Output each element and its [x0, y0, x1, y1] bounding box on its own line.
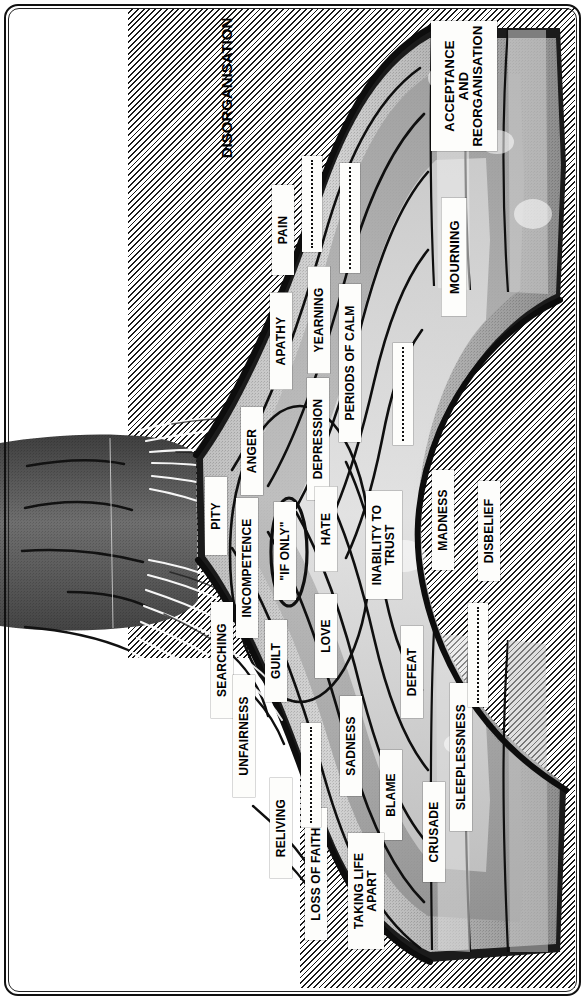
blank-label-blank-5[interactable] — [301, 723, 321, 827]
strand-label-anger: ANGER — [241, 407, 263, 495]
stage-label-acceptance-and-reorganisation: ACCEPTANCEANDREORGANISATION — [431, 21, 497, 151]
blank-label-blank-3[interactable] — [393, 343, 413, 445]
strand-label-yearning: YEARNING — [308, 267, 330, 374]
strand-label-searching: SEARCHING — [211, 602, 233, 718]
strand-label-unfairness: UNFAIRNESS — [233, 675, 255, 797]
rope-tail — [0, 434, 198, 650]
blank-label-blank-1[interactable] — [302, 156, 322, 252]
strand-label-guilt: GUILT — [265, 620, 287, 702]
strand-label-hate: HATE — [315, 487, 337, 572]
strand-label-depression: DEPRESSION — [307, 378, 329, 500]
strand-label-disbelief: DISBELIEF — [478, 481, 500, 581]
strand-label-love: LOVE — [315, 594, 337, 678]
strand-label-crusade: CRUSADE — [423, 782, 445, 882]
strand-label-inability-to-trust: INABILITY TOTRUST — [366, 491, 402, 599]
strand-label-taking-life-apart: TAKING LIFEAPART — [348, 833, 384, 949]
dotted-fill-line — [349, 167, 351, 269]
strand-label-defeat: DEFEAT — [401, 626, 423, 718]
strand-label-blame: BLAME — [380, 750, 402, 840]
dotted-fill-line — [310, 727, 312, 823]
strand-label-if-only: "IF ONLY" — [274, 502, 296, 600]
strand-label-incompetence: INCOMPETENCE — [236, 498, 258, 638]
strand-label-pity: PITY — [205, 477, 227, 555]
scanned-page: DISORGANISATIONACCEPTANCEANDREORGANISATI… — [0, 0, 585, 1000]
dotted-fill-line — [477, 607, 479, 703]
strand-label-pain: PAIN — [272, 185, 294, 275]
stage-label-disorganisation: DISORGANISATION — [218, 0, 235, 188]
strand-label-periods-of-calm: PERIODS OF CALM — [339, 284, 361, 442]
strand-label-reliving: RELIVING — [270, 778, 292, 878]
strand-label-loss-of-faith: LOSS OF FAITH — [305, 808, 327, 940]
dotted-fill-line — [402, 347, 404, 441]
strand-label-sadness: SADNESS — [340, 696, 362, 796]
blank-label-blank-4[interactable] — [468, 603, 488, 707]
strand-label-apathy: APATHY — [270, 293, 292, 390]
strand-label-madness: MADNESS — [432, 470, 454, 570]
stage-label-mourning: MOURNING — [442, 198, 467, 316]
blank-label-blank-2[interactable] — [340, 163, 360, 273]
dotted-fill-line — [311, 160, 313, 248]
